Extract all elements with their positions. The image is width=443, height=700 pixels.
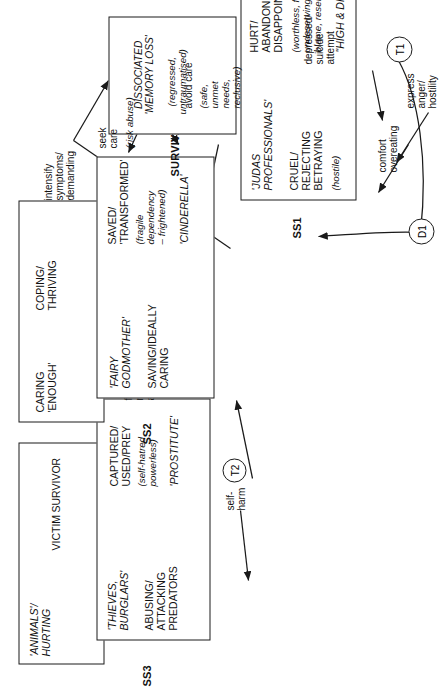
avoid-care-label: avoid care [182, 62, 193, 108]
express-anger-label: express anger/ hostility [404, 73, 438, 108]
ss3-other-main-name: 'THIEVES, BURGLARS' [106, 570, 130, 630]
depressed-to-comfort-arrow [372, 70, 382, 120]
intensify-symptoms-label: intensify symptoms/ demanding [42, 151, 76, 200]
ss2-other-main-role: SAVING/IDEALLY CARING [146, 304, 170, 388]
ss1-other-main-role: CRUEL/ REJECTING BETRAYING [288, 130, 323, 190]
marker-t2: T2 [222, 458, 246, 482]
comfort-overeating-label: comfort overeating [376, 125, 398, 172]
ss2-self-main-role: SAVED/ 'TRANSFORMED' [106, 159, 130, 244]
ss3-other-top: 'ANIMALS'/ HURTING [28, 603, 52, 656]
seek-care-note: (risk abuse) [124, 97, 135, 148]
self-harm-label: self- harm [224, 487, 246, 510]
ss3-self-top-victim: VICTIM [50, 514, 62, 550]
marker-t1: T1 [386, 36, 412, 62]
marker-d1-label: D1 [416, 225, 427, 238]
express-anger-to-ss1-arrow [396, 112, 428, 162]
ss2-top-box [18, 200, 104, 422]
depressed-suicide-label: depressed/ suicide attempt [302, 15, 336, 64]
seek-care-label: seek care [96, 127, 118, 148]
d1-to-seek-care-curve [318, 231, 420, 236]
marker-d1: D1 [408, 218, 434, 244]
self-harm-to-ss3-arrow [240, 510, 248, 580]
ss2-other-main-name: 'FAIRY GODMOTHER' [108, 317, 132, 388]
ss2-other-top: CARING 'ENOUGH' [34, 362, 58, 412]
ss3-other-main-role: ABUSING/ ATTACKING PREDATORS [143, 566, 178, 630]
ss2-self-main-name: 'CINDERELLA' [178, 174, 190, 244]
ss2-self-main-feel: (fragile dependency – frightened) [134, 189, 167, 244]
ss1-self-main-role: HURT/ ABANDONED DISAPPOINTED [248, 0, 283, 52]
avoid-care-note: (safe, unmet needs, reclusive) [198, 66, 242, 108]
ss3-self-main-role: CAPTURED/ USED/PREY [108, 425, 132, 486]
marker-t2-label: T2 [229, 464, 240, 476]
ss3-self-top-survivor: SURVIVOR [50, 457, 62, 512]
diagram-canvas: SS3 'ANIMALS'/ HURTING VICTIM SURVIVOR '… [0, 0, 443, 700]
diagram-page: SS3 'ANIMALS'/ HURTING VICTIM SURVIVOR '… [0, 0, 443, 700]
ss2-tag: SS2 [140, 423, 152, 444]
marker-t1-label: T1 [394, 43, 405, 55]
ss1-other-main-name: 'JUDAS PROFESSIONALS' [250, 99, 274, 190]
ss1-tag: SS1 [290, 217, 302, 238]
ss1-other-main-feel: (hostile) [330, 155, 341, 190]
ss2-self-top: COPING/ THRIVING [34, 260, 58, 310]
ss3-self-main-name: 'PROSTITUTE' [168, 415, 180, 486]
ss3-tag: SS3 [140, 665, 152, 686]
